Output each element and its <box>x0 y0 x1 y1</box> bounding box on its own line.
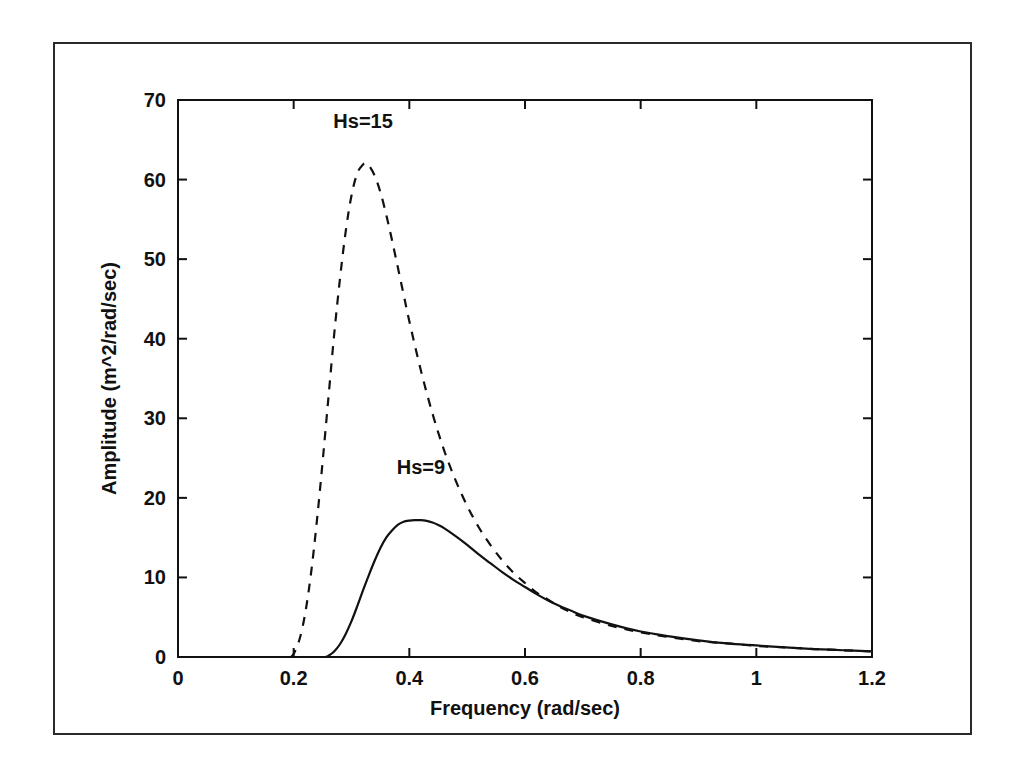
y-axis-title: Amplitude (m^2/rad/sec) <box>98 262 120 495</box>
x-tick-label: 1.2 <box>858 667 886 689</box>
y-tick-label: 50 <box>144 248 166 270</box>
x-tick-label: 1 <box>751 667 762 689</box>
x-tick-label: 0.4 <box>395 667 424 689</box>
plot-frame <box>178 100 872 657</box>
annotation-hs-15: Hs=15 <box>333 110 393 132</box>
y-tick-label: 20 <box>144 487 166 509</box>
x-tick-label: 0.6 <box>511 667 539 689</box>
series-curve-hs-9 <box>325 520 872 657</box>
x-tick-label: 0.8 <box>627 667 655 689</box>
series-group <box>291 163 872 657</box>
y-tick-label: 0 <box>155 646 166 668</box>
y-tick-label: 10 <box>144 566 166 588</box>
annotation-hs-9: Hs=9 <box>397 456 445 478</box>
y-tick-label: 40 <box>144 328 166 350</box>
figure-container: 00.20.40.60.811.2010203040506070Hs=15Hs=… <box>0 0 1019 778</box>
x-axis-title: Frequency (rad/sec) <box>430 697 620 719</box>
x-tick-label: 0.2 <box>280 667 308 689</box>
axes-group <box>178 100 872 657</box>
series-curve-hs-15 <box>291 163 872 657</box>
y-tick-label: 70 <box>144 89 166 111</box>
chart-canvas: 00.20.40.60.811.2010203040506070Hs=15Hs=… <box>0 0 1019 778</box>
y-tick-label: 30 <box>144 407 166 429</box>
y-tick-label: 60 <box>144 169 166 191</box>
x-tick-label: 0 <box>172 667 183 689</box>
labels-group: 00.20.40.60.811.2010203040506070Hs=15Hs=… <box>98 89 886 719</box>
